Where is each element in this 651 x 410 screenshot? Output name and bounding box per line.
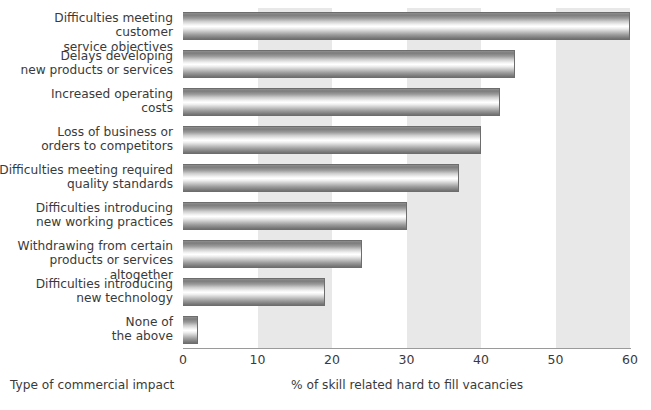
bar-row [183, 278, 325, 306]
x-tick-label: 30 [399, 352, 415, 367]
category-label-line: Increased operating [0, 87, 173, 102]
x-axis-caption: % of skill related hard to fill vacancie… [183, 378, 631, 392]
bar [183, 126, 481, 154]
bar [183, 88, 500, 116]
bars-layer [183, 8, 630, 348]
y-axis-caption: Type of commercial impact [10, 378, 174, 392]
bar [183, 240, 362, 268]
bar [183, 202, 407, 230]
category-label-line: costs [0, 101, 173, 116]
bar-chart: 0102030405060 Difficulties meeting custo… [0, 0, 651, 410]
category-label-line: new technology [0, 291, 173, 306]
bar [183, 12, 630, 40]
category-label-line: Difficulties meeting required [0, 163, 173, 178]
category-label-line: Difficulties meeting customer [0, 11, 173, 40]
bar-row [183, 316, 198, 344]
category-label-line: Withdrawing from certain [0, 239, 173, 254]
x-tick-label: 50 [548, 352, 564, 367]
category-label: Difficulties meeting customerservice obj… [0, 11, 173, 55]
x-tick-label: 60 [622, 352, 638, 367]
category-label-line: new working practices [0, 215, 173, 230]
category-label-line: quality standards [0, 177, 173, 192]
bar-row [183, 202, 407, 230]
bar-row [183, 126, 481, 154]
bar-row [183, 12, 630, 40]
category-label: Loss of business ororders to competitors [0, 125, 173, 154]
category-label-line: Difficulties introducing [0, 201, 173, 216]
category-label: Increased operatingcosts [0, 87, 173, 116]
x-tick-label: 40 [473, 352, 489, 367]
bar-row [183, 88, 500, 116]
category-label-line: orders to competitors [0, 139, 173, 154]
bar [183, 278, 325, 306]
category-label: Difficulties meeting requiredquality sta… [0, 163, 173, 192]
category-label-line: the above [0, 329, 173, 344]
plot-area [183, 8, 630, 348]
category-label-line: Delays developing [0, 49, 173, 64]
bar [183, 316, 198, 344]
x-tick-label: 20 [324, 352, 340, 367]
bar-row [183, 50, 515, 78]
category-axis-labels: Difficulties meeting customerservice obj… [0, 8, 178, 348]
category-label-line: Loss of business or [0, 125, 173, 140]
x-axis-line [183, 348, 631, 349]
x-tick-label: 10 [250, 352, 266, 367]
bar-row [183, 240, 362, 268]
bar-row [183, 164, 459, 192]
category-label: Withdrawing from certainproducts or serv… [0, 239, 173, 283]
bar [183, 50, 515, 78]
category-label-line: Difficulties introducing [0, 277, 173, 292]
bar [183, 164, 459, 192]
category-label-line: None of [0, 315, 173, 330]
category-label: Difficulties introducingnew working prac… [0, 201, 173, 230]
category-label: Delays developingnew products or service… [0, 49, 173, 78]
category-label-line: new products or services [0, 63, 173, 78]
category-label: None ofthe above [0, 315, 173, 344]
x-tick-label: 0 [179, 352, 187, 367]
category-label: Difficulties introducingnew technology [0, 277, 173, 306]
